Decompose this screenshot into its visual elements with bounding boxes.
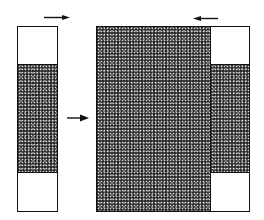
center-arrow-right-icon [67, 115, 89, 122]
top-right-arrow-left-icon [193, 16, 218, 21]
arrows-layer [0, 0, 264, 220]
top-left-arrow-right-icon [44, 15, 70, 20]
